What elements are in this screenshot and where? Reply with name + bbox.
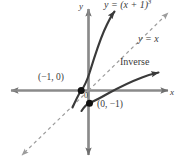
y-axis-label: y (79, 2, 83, 11)
function-label: y = (x + 1)3 (104, 0, 151, 10)
identity-line-label: y = x (138, 34, 159, 44)
point-marker-0-minus1 (86, 100, 93, 107)
point-label-0-minus1: (0, −1) (97, 100, 123, 110)
x-axis-label: x (170, 88, 174, 97)
function-exponent: 3 (148, 0, 151, 5)
graph-canvas (0, 0, 180, 165)
graph-figure: y = (x + 1)3 y = x Inverse (−1, 0) (0, −… (0, 0, 180, 165)
origin-label: 0 (84, 92, 88, 100)
inverse-label: Inverse (120, 57, 149, 67)
point-label-minus1-0: (−1, 0) (38, 73, 64, 83)
